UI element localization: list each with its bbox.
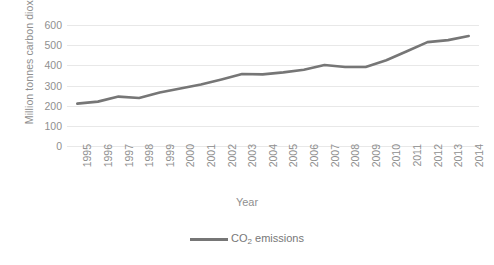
x-tick-label-1997: 1997 [123,144,135,188]
x-tick-label-2000: 2000 [184,144,196,188]
y-tick-label-600: 600 [44,20,62,30]
x-tick-label-1999: 1999 [164,144,176,188]
x-tick-label-2008: 2008 [349,144,361,188]
y-tick-label-300: 300 [44,81,62,91]
y-tick-label-0: 0 [56,141,62,151]
chart-legend: CO2 emissions [0,232,494,246]
x-tick-label-2009: 2009 [370,144,382,188]
x-tick-label-2007: 2007 [329,144,341,188]
y-tick-label-400: 400 [44,60,62,70]
x-tick-label-1996: 1996 [102,144,114,188]
x-tick-label-2005: 2005 [287,144,299,188]
y-tick-label-500: 500 [44,40,62,50]
x-tick-label-2011: 2011 [411,144,423,188]
x-tick-label-2014: 2014 [473,144,485,188]
x-tick-label-1995: 1995 [81,144,93,188]
legend-item-co2-emissions: CO2 emissions [231,232,304,246]
x-tick-label-2004: 2004 [267,144,279,188]
legend-label-suffix: emissions [252,232,304,244]
series-svg [67,25,479,146]
x-tick-label-2003: 2003 [246,144,258,188]
x-tick-label-2001: 2001 [205,144,217,188]
x-tick-label-2006: 2006 [308,144,320,188]
y-tick-label-200: 200 [44,101,62,111]
series-line-co2-emissions [77,36,468,104]
x-tick-label-2002: 2002 [226,144,238,188]
x-tick-label-2012: 2012 [432,144,444,188]
co2-emissions-line-chart: Million tonnes carbon dioxide 6005004003… [0,0,494,265]
x-axis-tick-labels: 1995199619971998199920002001200220032004… [67,148,479,192]
x-tick-label-2013: 2013 [452,144,464,188]
x-tick-label-2010: 2010 [390,144,402,188]
legend-label-prefix: CO [231,232,248,244]
legend-line-swatch [190,238,228,241]
y-axis-tick-labels: 6005004003002001000 [28,0,62,160]
y-tick-label-100: 100 [44,121,62,131]
x-tick-label-1998: 1998 [143,144,155,188]
plot-area [67,25,479,146]
x-axis-title: Year [0,196,494,208]
